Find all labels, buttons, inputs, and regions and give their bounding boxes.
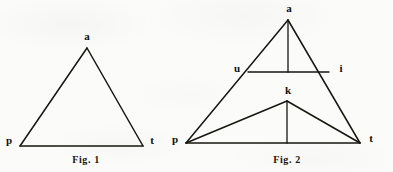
figure-2-drawing — [186, 20, 360, 143]
figure-1-drawing — [20, 48, 143, 146]
fig2-vertex-label-p: p — [172, 134, 178, 145]
fig2-edge-a-t — [288, 20, 360, 143]
fig1-caption: Fig. 1 — [72, 154, 100, 165]
fig2-caption: Fig. 2 — [273, 154, 301, 165]
fig2-edge-p-k — [186, 101, 287, 143]
fig2-vertex-label-i: i — [339, 63, 342, 74]
fig2-vertex-label-u: u — [234, 63, 240, 74]
fig2-edge-p-a — [186, 20, 288, 143]
figure-plate: a p t Fig. 1 a u i k p t Fig. 2 — [0, 0, 393, 172]
fig1-edge-p-a — [20, 48, 87, 146]
fig1-edge-a-t — [87, 48, 143, 146]
fig2-vertex-label-k: k — [285, 85, 291, 96]
fig2-vertex-label-a: a — [286, 3, 292, 14]
fig1-vertex-label-p: p — [6, 135, 12, 146]
figures-drawing — [0, 0, 393, 172]
fig1-vertex-label-t: t — [150, 135, 154, 146]
fig2-edge-k-t — [287, 101, 360, 143]
fig1-vertex-label-a: a — [84, 31, 90, 42]
fig2-vertex-label-t: t — [369, 133, 373, 144]
